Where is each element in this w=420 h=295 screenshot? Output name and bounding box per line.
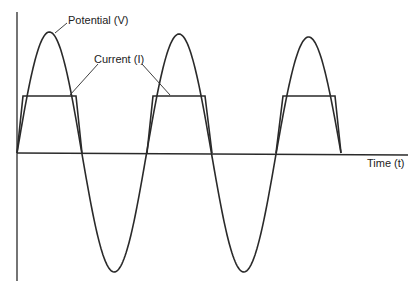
waveform-diagram [0, 0, 420, 295]
current-label: Current (I) [94, 53, 144, 65]
potential-leader [55, 23, 67, 33]
potential-curve [17, 32, 341, 272]
current-leader-2 [142, 64, 170, 95]
potential-label: Potential (V) [68, 14, 129, 26]
current-leader-1 [70, 64, 98, 95]
current-curve [17, 96, 341, 153]
time-axis-label: Time (t) [367, 157, 404, 169]
